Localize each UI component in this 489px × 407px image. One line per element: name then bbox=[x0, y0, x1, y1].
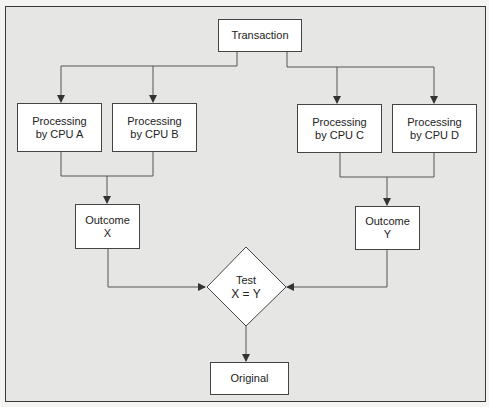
node-label-line1: Outcome bbox=[85, 214, 130, 227]
node-test: Test X = Y bbox=[216, 273, 276, 301]
node-cpu-b: Processing by CPU B bbox=[112, 103, 197, 152]
node-label-line2: Y bbox=[384, 228, 391, 241]
node-outcome-y: Outcome Y bbox=[355, 206, 420, 250]
node-label-line1: Processing bbox=[32, 115, 86, 128]
node-outcome-x: Outcome X bbox=[75, 204, 140, 249]
node-cpu-d: Processing by CPU D bbox=[392, 104, 477, 153]
node-label-line1: Outcome bbox=[365, 215, 410, 228]
node-label-line2: X bbox=[104, 227, 111, 240]
node-transaction: Transaction bbox=[218, 19, 302, 52]
node-label: Original bbox=[231, 372, 269, 385]
node-label-line1: Processing bbox=[312, 116, 366, 129]
node-cpu-a: Processing by CPU A bbox=[17, 103, 102, 152]
node-label: Transaction bbox=[231, 29, 288, 42]
node-label-line2: by CPU D bbox=[410, 129, 459, 142]
node-original: Original bbox=[210, 362, 289, 395]
connector-lines bbox=[0, 0, 489, 407]
node-label-line2: by CPU A bbox=[36, 128, 84, 141]
node-cpu-c: Processing by CPU C bbox=[297, 104, 382, 153]
node-label-line2: by CPU C bbox=[315, 129, 364, 142]
node-label-line1: Processing bbox=[407, 116, 461, 129]
node-label-line2: X = Y bbox=[216, 287, 276, 301]
node-label-line2: by CPU B bbox=[130, 128, 178, 141]
node-label-line1: Processing bbox=[127, 115, 181, 128]
node-label-line1: Test bbox=[216, 273, 276, 287]
